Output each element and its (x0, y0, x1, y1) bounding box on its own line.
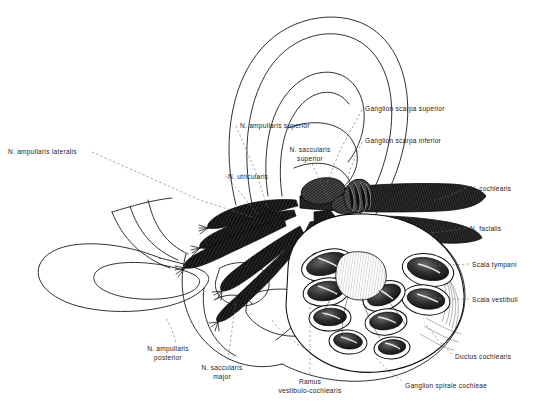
label-n-saccularis-superior-line2: superior (273, 155, 347, 164)
label-ganglion-scarpa-superior: Ganglion scarpa superior (365, 105, 445, 114)
label-ganglion-scarpa-inferior: Ganglion scarpa inferior (365, 137, 441, 146)
label-n-facialis: N. facialis (470, 225, 501, 234)
label-n-ampullaris-lateralis: N. ampullaris lateralis (8, 148, 77, 157)
label-ramus-vestibulo-cochlearis-line2: vestibulo-cochlearis (255, 387, 365, 396)
label-n-saccularis-major-line2: major (180, 373, 264, 382)
modiolus (336, 252, 386, 300)
label-n-ampullaris-superior: N. ampullaris superior (240, 122, 310, 131)
label-scala-tympani: Scala tympani (472, 261, 517, 270)
anatomy-illustration (0, 0, 535, 404)
leader-n-ampullaris-superior (236, 126, 268, 208)
label-ramus-vestibulo-cochlearis: Ramus vestibulo-cochlearis (255, 378, 365, 395)
leader-n-ampullaris-posterior (166, 318, 176, 342)
label-n-saccularis-major: N. saccularis major (180, 364, 264, 381)
label-n-saccularis-major-line1: N. saccularis (180, 364, 264, 373)
label-n-ampullaris-posterior: N. ampullaris posterior (126, 345, 210, 362)
label-n-utricularis: N. utricularis (228, 173, 268, 182)
label-n-saccularis-superior: N. saccularis superior (273, 146, 347, 163)
label-ramus-vestibulo-cochlearis-line1: Ramus (255, 378, 365, 387)
leader-n-ampullaris-lateralis (92, 152, 255, 218)
label-n-saccularis-superior-line1: N. saccularis (273, 146, 347, 155)
anatomical-plate: N. ampullaris lateralis N. ampullaris su… (0, 0, 535, 404)
label-n-ampullaris-posterior-line1: N. ampullaris (126, 345, 210, 354)
label-n-ampullaris-posterior-line2: posterior (126, 354, 210, 363)
label-n-cochlearis: N. cochlearis (470, 185, 511, 194)
label-ductus-cochlearis: Ductus cochlearis (455, 353, 511, 362)
label-ganglion-spirale-cochleae: Ganglion spirale cochleae (405, 382, 487, 391)
label-scala-vestibuli: Scala vestibuli (472, 296, 518, 305)
